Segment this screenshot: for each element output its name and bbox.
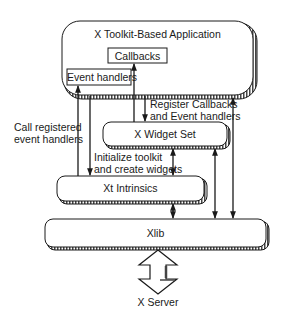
call-registered-label-1: Call registered <box>14 121 82 133</box>
event-handlers-label: Event handlers <box>67 71 131 83</box>
initialize-toolkit-label-2: and create widgets <box>94 163 182 175</box>
xserver-block-arrow <box>139 250 177 294</box>
x-server-label: X Server <box>118 296 198 308</box>
register-callbacks-label-1: Register Callbacks <box>150 98 238 110</box>
register-callbacks-label-2: and Event handlers <box>150 110 240 122</box>
initialize-toolkit-label-1: Initialize toolkit <box>94 151 162 163</box>
widget-set-label: X Widget Set <box>103 128 227 140</box>
callbacks-label: Callbacks <box>108 50 167 62</box>
app-title: X Toolkit-Based Application <box>62 28 253 40</box>
xlib-label: Xlib <box>45 227 266 239</box>
call-registered-label-2: event handlers <box>14 133 83 145</box>
xt-intrinsics-label: Xt Intrinsics <box>57 182 204 194</box>
